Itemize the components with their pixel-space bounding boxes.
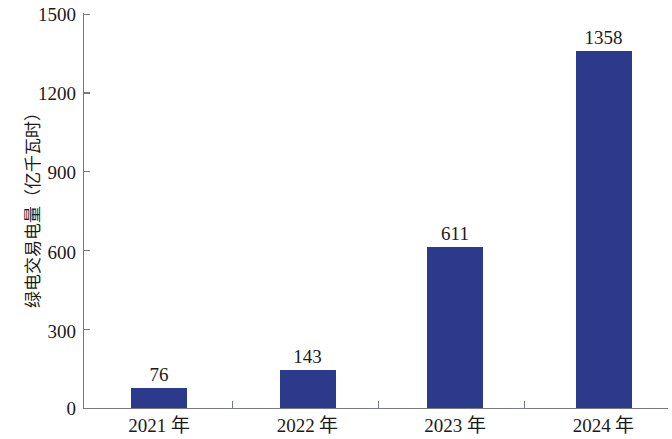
y-tick-label-300: 300 [14,322,76,341]
bar-2023 [427,247,483,408]
x-tick-mark-3 [524,401,525,408]
bar-value-2021: 76 [129,365,189,384]
y-tick-label-900: 900 [14,163,76,182]
x-category-label-2022: 2022 年 [258,415,358,436]
bar-value-2022: 143 [278,347,338,366]
y-tick-label-1200: 1200 [14,84,76,103]
x-category-label-2021: 2021 年 [109,415,209,436]
bar-2022 [280,370,336,408]
bar-value-2024: 1358 [574,28,634,47]
y-tick-label-600: 600 [14,243,76,262]
x-tick-mark-2 [378,401,379,408]
y-tick-label-1500: 1500 [14,5,76,24]
y-tick-label-0: 0 [14,399,76,418]
bar-chart: 绿电交易电量（亿千瓦时） 1500 1200 900 600 300 0 76 … [0,0,672,439]
x-category-label-2024: 2024 年 [554,415,654,436]
bar-value-2023: 611 [425,224,485,243]
bar-2021 [131,388,187,408]
y-axis-title: 绿电交易电量（亿千瓦时） [21,61,47,351]
x-tick-mark-1 [232,401,233,408]
x-category-label-2023: 2023 年 [405,415,505,436]
y-axis-line [83,13,84,409]
bar-2024 [576,51,632,408]
